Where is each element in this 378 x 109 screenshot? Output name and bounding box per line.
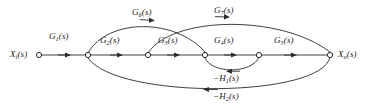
feedback-path-h1 — [205, 57, 259, 71]
output-node-label: Xo(s) — [338, 50, 357, 59]
branch-label-h1: −H1(s) — [213, 74, 239, 83]
branch-label-g3: G3(s) — [158, 36, 178, 45]
node-4 — [202, 52, 207, 57]
branch-label-g7-text: G7(s) — [214, 6, 234, 15]
branch-label-g6: G6(s) — [132, 8, 152, 17]
branch-label-g4: G4(s) — [214, 36, 234, 45]
signal-flow-graph-figure: Xi(s) Xo(s) G1(s) G2(s) G3(s) G4(s) G5(s… — [0, 0, 378, 109]
node-2 — [85, 52, 90, 57]
input-node-label: Xi(s) — [10, 50, 27, 59]
branch-label-g2: G2(s) — [100, 36, 120, 45]
feedback-path-h2 — [88, 57, 330, 90]
node-3 — [145, 52, 150, 57]
branch-label-h2: −H2(s) — [213, 92, 239, 101]
node-output — [327, 52, 332, 57]
branch-label-g5: G5(s) — [274, 36, 294, 45]
node-input — [36, 52, 41, 57]
branch-label-g1: G1(s) — [49, 32, 69, 41]
node-5 — [256, 52, 261, 57]
signal-flow-graph-canvas — [0, 0, 378, 109]
